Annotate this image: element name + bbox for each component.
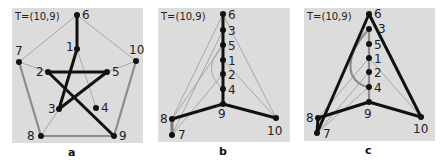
label-8: 8 xyxy=(27,129,35,143)
node-2 xyxy=(366,69,372,75)
node-1 xyxy=(220,57,226,63)
node-5 xyxy=(220,42,226,48)
label-6: 6 xyxy=(82,8,90,22)
node-3 xyxy=(220,27,226,33)
node-4 xyxy=(366,84,372,90)
label-8: 8 xyxy=(306,111,314,125)
label-3: 3 xyxy=(378,22,386,36)
node-10 xyxy=(133,58,139,64)
node-4 xyxy=(220,86,226,92)
label-5: 5 xyxy=(112,65,120,79)
panel-a: T=(10,9) 6 1 7 10 2 5 xyxy=(12,8,144,159)
label-9: 9 xyxy=(218,107,226,121)
panel-a-title: T=(10,9) xyxy=(14,11,60,22)
node-1 xyxy=(74,46,80,52)
label-1: 1 xyxy=(374,52,382,66)
label-7: 7 xyxy=(323,127,331,141)
node-8 xyxy=(315,115,321,121)
label-10: 10 xyxy=(129,43,144,57)
label-7: 7 xyxy=(15,44,23,58)
node-7 xyxy=(169,132,175,138)
label-7: 7 xyxy=(178,128,186,142)
label-3: 3 xyxy=(48,102,56,116)
figure: T=(10,9) 6 1 7 10 2 5 xyxy=(0,0,441,162)
panel-c-title: T=(10,9) xyxy=(306,11,352,22)
node-4 xyxy=(93,105,99,111)
node-7 xyxy=(16,59,22,65)
panel-a-caption: a xyxy=(68,146,75,159)
node-9 xyxy=(366,99,372,105)
node-3 xyxy=(366,26,372,32)
panel-b-title: T=(10,9) xyxy=(160,11,206,22)
label-1: 1 xyxy=(66,40,74,54)
node-2 xyxy=(45,69,51,75)
label-1: 1 xyxy=(228,54,236,68)
node-7 xyxy=(314,130,320,136)
panel-b: T=(10,9) 6 3 5 1 2 4 9 8 7 10 xyxy=(158,8,290,158)
label-2: 2 xyxy=(228,68,236,82)
label-10: 10 xyxy=(413,122,428,136)
label-6: 6 xyxy=(374,7,382,21)
node-9 xyxy=(111,133,117,139)
node-8 xyxy=(169,116,175,122)
node-6 xyxy=(74,12,80,18)
label-4: 4 xyxy=(374,81,382,95)
node-10 xyxy=(418,114,424,120)
label-2: 2 xyxy=(36,65,44,79)
label-4: 4 xyxy=(228,83,236,97)
node-8 xyxy=(38,133,44,139)
label-6: 6 xyxy=(228,8,236,22)
label-10: 10 xyxy=(267,124,282,138)
label-4: 4 xyxy=(101,101,109,115)
panel-c-caption: c xyxy=(365,144,372,157)
panel-c: T=(10,9) 6 3 5 1 2 4 9 8 xyxy=(304,7,435,157)
label-5: 5 xyxy=(228,39,236,53)
label-3: 3 xyxy=(228,24,236,38)
node-2 xyxy=(220,71,226,77)
label-2: 2 xyxy=(374,66,382,80)
node-5 xyxy=(366,41,372,47)
panel-b-caption: b xyxy=(219,145,227,158)
label-5: 5 xyxy=(374,38,382,52)
node-5 xyxy=(104,69,110,75)
label-9: 9 xyxy=(119,129,127,143)
node-1 xyxy=(366,55,372,61)
node-3 xyxy=(56,106,62,112)
node-10 xyxy=(273,115,279,121)
label-9: 9 xyxy=(364,107,372,121)
node-6 xyxy=(220,11,226,17)
label-8: 8 xyxy=(160,112,168,126)
node-6 xyxy=(366,11,372,17)
